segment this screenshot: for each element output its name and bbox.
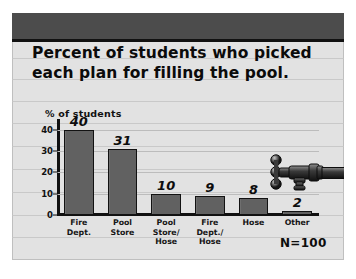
x-axis-category-label: Pool Store (106, 218, 139, 237)
y-axis-tick-label: 30 (41, 146, 53, 156)
x-axis-category-label: Fire Dept./ Hose (193, 218, 226, 247)
bar: 10Pool Store/ Hose (151, 194, 181, 215)
bar: 9Fire Dept./ Hose (195, 196, 225, 215)
bar: 40Fire Dept. (64, 130, 94, 215)
y-axis-tick-label: 20 (41, 167, 53, 177)
bar-value-label: 10 (152, 178, 180, 193)
y-axis-tick-mark (53, 129, 58, 130)
y-axis-tick-label: 10 (41, 189, 53, 199)
y-axis-tick-mark (53, 172, 58, 173)
bar-value-label: 8 (240, 182, 268, 197)
chart-gridline (57, 130, 319, 131)
x-axis-category-label: Fire Dept. (62, 218, 95, 237)
y-axis-tick-mark (53, 150, 58, 151)
title-line-2: each plan for filling the pool. (32, 64, 289, 82)
y-axis-tick-mark (53, 193, 58, 194)
bar: 31Pool Store (108, 149, 138, 215)
bar-value-label: 9 (196, 180, 224, 195)
faucet-spigot-icon (267, 153, 344, 199)
poster-slide: Percent of students who picked each plan… (12, 13, 344, 260)
x-axis-category-label: Pool Store/ Hose (150, 218, 183, 247)
bar-value-label: 31 (109, 133, 137, 148)
chart-title: Percent of students who picked each plan… (32, 44, 332, 84)
title-line-1: Percent of students who picked (32, 44, 312, 62)
x-axis-category-label: Other (281, 218, 314, 228)
bar: 8Hose (239, 198, 269, 215)
y-axis-tick-label: 40 (41, 125, 53, 135)
bar-value-label: 40 (65, 114, 93, 129)
y-axis-tick-mark (53, 215, 58, 216)
background-rule-line (12, 101, 344, 102)
header-band (12, 13, 344, 39)
y-axis-tick-label: 0 (47, 210, 53, 220)
x-axis-category-label: Hose (237, 218, 270, 228)
bar: 2Other (282, 211, 312, 215)
header-band-underline (12, 39, 344, 42)
photograph-frame: Percent of students who picked each plan… (0, 0, 356, 279)
sample-size-annotation: N=100 (280, 236, 327, 250)
chart-gridline (57, 151, 319, 152)
